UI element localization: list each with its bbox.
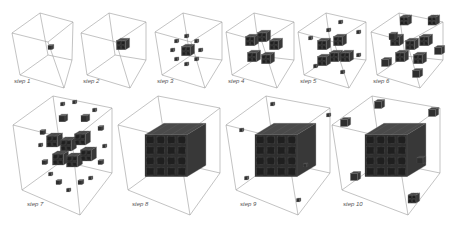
step-6-label: step 6: [373, 78, 389, 84]
step-8-panel: [118, 96, 220, 215]
step-1-panel: [12, 13, 73, 88]
step-9-label: step 9: [240, 201, 256, 207]
fractal-cube-cluster: [117, 38, 130, 49]
bounding-box-wireframe: [12, 13, 73, 88]
fractal-cube-figure: [0, 0, 451, 225]
fractal-cube-cluster: [382, 15, 445, 78]
step-3-label: step 3: [157, 78, 173, 84]
step-8-label: step 8: [132, 201, 148, 207]
step-7-label: step 7: [27, 201, 43, 207]
step-2-panel: [81, 13, 146, 88]
fractal-cube-cluster: [341, 100, 439, 204]
step-3-panel: [155, 13, 222, 88]
step-7-panel: [13, 96, 112, 215]
step-5-panel: [298, 13, 366, 88]
step-9-panel: [226, 96, 331, 215]
step-1-label: step 1: [14, 78, 30, 84]
step-10-label: step 10: [343, 201, 363, 207]
fractal-cube-cluster: [246, 30, 283, 63]
bounding-box-wireframe: [81, 13, 146, 88]
fractal-cube-cluster: [145, 123, 206, 176]
bounding-box-wireframe: [298, 13, 366, 88]
step-4-panel: [226, 13, 294, 88]
step-2-label: step 2: [83, 78, 99, 84]
fractal-cube-cluster: [39, 100, 107, 192]
fractal-cube-cluster: [171, 34, 203, 66]
fractal-cube-cluster: [48, 44, 54, 49]
step-10-panel: [332, 96, 440, 215]
step-6-panel: [371, 13, 445, 88]
fractal-cube-cluster: [309, 20, 361, 74]
step-5-label: step 5: [300, 78, 316, 84]
step-4-label: step 4: [228, 78, 244, 84]
